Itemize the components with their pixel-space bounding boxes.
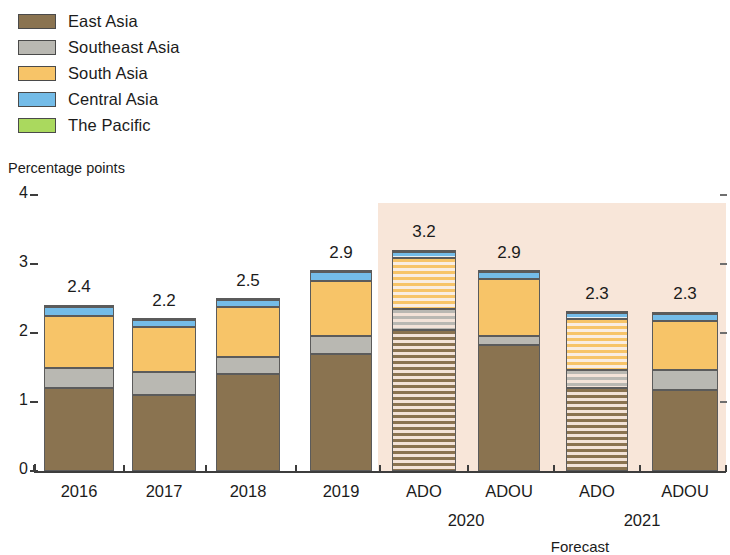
x-axis-group-label-1: 2021 [566, 511, 718, 530]
bar-0 [44, 305, 114, 471]
bar-segment-1 [392, 309, 456, 330]
bar-segment-3 [392, 252, 456, 258]
x-axis-tick-mark [123, 465, 125, 472]
bar-segment-3 [44, 307, 114, 315]
bar-segment-2 [652, 321, 718, 370]
bar-2 [216, 299, 280, 472]
bar-7 [652, 312, 718, 471]
bar-value-label-3: 2.9 [298, 243, 384, 263]
bar-segment-2 [216, 307, 280, 357]
y-axis-tick-mark-right [720, 194, 727, 196]
bar-segment-4 [652, 312, 718, 314]
bar-segment-1 [652, 370, 718, 390]
bar-segment-3 [216, 300, 280, 308]
y-axis-tick-label: 2 [4, 322, 28, 340]
bar-segment-2 [392, 258, 456, 309]
bar-segment-4 [310, 270, 372, 272]
x-axis-group-label-0: 2020 [392, 511, 540, 530]
bar-segment-3 [310, 272, 372, 280]
bar-segment-0 [216, 374, 280, 471]
bar-segment-0 [478, 345, 540, 471]
bar-segment-0 [44, 388, 114, 471]
y-axis-tick-mark-right [720, 263, 727, 265]
bar-value-label-5: 2.9 [466, 243, 552, 263]
x-axis-tick-mark [205, 465, 207, 472]
bar-segment-2 [132, 327, 196, 373]
bar-segment-0 [652, 390, 718, 471]
bar-segment-1 [310, 336, 372, 354]
y-axis-tick-label: 3 [4, 253, 28, 271]
bar-segment-4 [566, 311, 628, 313]
bar-value-label-7: 2.3 [640, 284, 730, 304]
bar-segment-1 [132, 372, 196, 395]
y-axis-tick-mark-right [720, 332, 727, 334]
bar-segment-1 [216, 357, 280, 374]
bar-value-label-1: 2.2 [120, 291, 208, 311]
bar-segment-0 [132, 395, 196, 471]
x-axis-tick-mark [379, 465, 381, 472]
bar-segment-2 [478, 279, 540, 336]
bar-segment-4 [216, 298, 280, 300]
y-axis-tick-mark [30, 263, 38, 265]
x-axis-category-label-2: 2018 [196, 482, 300, 501]
bar-segment-2 [44, 316, 114, 368]
bar-5 [478, 271, 540, 471]
bar-4 [392, 250, 456, 471]
bar-segment-0 [310, 354, 372, 471]
bar-segment-1 [44, 368, 114, 388]
x-axis-category-label-5: ADOU [458, 482, 560, 501]
y-axis-tick-mark [30, 401, 38, 403]
bar-segment-0 [392, 330, 456, 471]
x-axis-category-label-7: ADOU [632, 482, 730, 501]
x-axis-tick-mark [467, 465, 469, 472]
bar-value-label-2: 2.5 [204, 271, 292, 291]
bar-segment-4 [478, 270, 540, 272]
bar-value-label-6: 2.3 [554, 284, 640, 304]
bar-segment-4 [392, 250, 456, 252]
bar-segment-3 [478, 272, 540, 280]
bar-segment-4 [132, 318, 196, 320]
bar-value-label-0: 2.4 [32, 277, 126, 297]
y-axis-tick-label: 0 [4, 460, 28, 478]
x-axis-tick-mark [639, 465, 641, 472]
bar-segment-3 [652, 314, 718, 321]
bar-segment-3 [566, 313, 628, 319]
bar-segment-3 [132, 320, 196, 327]
bar-segment-1 [566, 370, 628, 388]
bar-6 [566, 312, 628, 471]
bar-segment-4 [44, 305, 114, 307]
x-axis-tick-mark [33, 465, 35, 472]
bar-segment-0 [566, 388, 628, 471]
y-axis-tick-mark [30, 332, 38, 334]
bar-segment-2 [310, 281, 372, 336]
bar-value-label-4: 3.2 [380, 222, 468, 242]
y-axis-tick-label: 4 [4, 184, 28, 202]
y-axis-tick-mark-right [720, 401, 727, 403]
x-axis-tick-mark [295, 465, 297, 472]
forecast-caption-label: Forecast [440, 538, 720, 555]
x-axis-tick-mark [725, 465, 727, 472]
y-axis-tick-label: 1 [4, 391, 28, 409]
bar-segment-1 [478, 336, 540, 346]
bar-segment-2 [566, 319, 628, 370]
x-axis-tick-mark [553, 465, 555, 472]
bar-1 [132, 319, 196, 471]
bar-3 [310, 271, 372, 471]
y-axis-tick-mark [30, 194, 38, 196]
